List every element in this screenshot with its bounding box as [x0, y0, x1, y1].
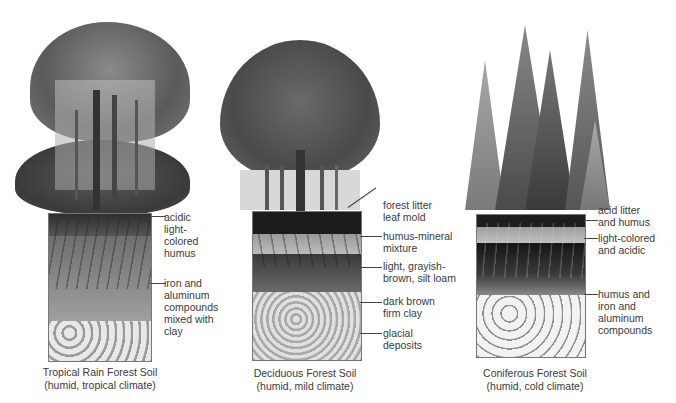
- deciduous-caption: Deciduous Forest Soil (humid, mild clima…: [230, 367, 380, 392]
- tropical-caption: Tropical Rain Forest Soil (humid, tropic…: [20, 366, 180, 391]
- tropical-caption-title: Tropical Rain Forest Soil: [20, 366, 180, 379]
- deciduous-soil-column: [252, 211, 362, 361]
- coniferous-soil-column: [476, 214, 586, 358]
- deciduous-label-glacial-deposits: glacial deposits: [383, 327, 422, 351]
- coniferous-panel: acid litter and humus light-colored and …: [460, 0, 676, 403]
- tropical-label-humus: acidic light- colored humus: [164, 211, 198, 259]
- coniferous-caption-subtitle: (humid, cold climate): [455, 380, 615, 393]
- deciduous-label-humus-mineral: humus-mineral mixture: [383, 230, 452, 254]
- deciduous-caption-title: Deciduous Forest Soil: [230, 367, 380, 380]
- coniferous-label-humus-iron-aluminum: humus and iron and aluminum compounds: [598, 288, 652, 336]
- coniferous-caption: Coniferous Forest Soil (humid, cold clim…: [455, 367, 615, 392]
- coniferous-label-light-colored: light-colored and acidic: [598, 232, 655, 256]
- coniferous-caption-title: Coniferous Forest Soil: [455, 367, 615, 380]
- coniferous-label-acid-litter: acid litter and humus: [598, 204, 650, 228]
- deciduous-label-firm-clay: dark brown firm clay: [383, 295, 435, 319]
- deciduous-label-silt-loam: light, grayish- brown, silt loam: [383, 260, 456, 284]
- deciduous-panel: forest litter leaf mold humus-mineral mi…: [220, 0, 460, 403]
- tropical-soil-column: [48, 213, 152, 362]
- tropical-panel: acidic light- colored humus iron and alu…: [0, 0, 220, 403]
- tropical-label-iron-aluminum: iron and aluminum compounds mixed with c…: [164, 277, 218, 337]
- deciduous-label-forest-litter: forest litter leaf mold: [383, 199, 432, 223]
- deciduous-caption-subtitle: (humid, mild climate): [230, 380, 380, 393]
- tropical-caption-subtitle: (humid, tropical climate): [20, 379, 180, 392]
